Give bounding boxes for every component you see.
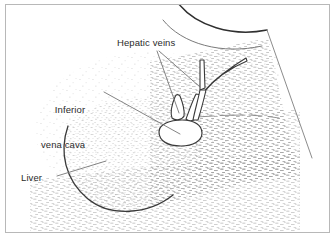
hepatic-vein-branch-vertical [200, 60, 205, 90]
label-inferior-vena-cava-line2: vena cava [41, 139, 85, 151]
label-inferior-vena-cava: Inferior vena cava [41, 81, 85, 173]
label-liver: Liver [21, 172, 42, 184]
inferior-vena-cava-oval [159, 120, 202, 146]
label-hepatic-veins: Hepatic veins [117, 37, 175, 49]
label-inferior-vena-cava-line1: Inferior [41, 104, 85, 116]
transducer-arc-outer [178, 3, 267, 32]
figure-page: Hepatic veins Inferior vena cava Liver [0, 0, 336, 238]
